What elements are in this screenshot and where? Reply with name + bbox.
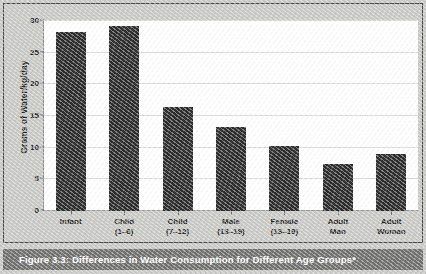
plot-area: Grams of Water/kg/day 051015202530 Infan… (4, 4, 422, 242)
bar-group: AdultMan (311, 21, 364, 211)
x-tick-label-line: Woman (377, 227, 406, 237)
x-tick-label-line: (7–12) (166, 227, 189, 237)
x-tick-label: Child(7–12) (166, 217, 189, 237)
x-tick-label-line: Child (114, 217, 134, 227)
bar-group: Male(13–19) (204, 21, 257, 211)
bar-series: InfantChild(1–6)Child(7–12)Male(13–19)Fe… (44, 21, 418, 211)
x-tick-label-line: (1–6) (114, 227, 134, 237)
y-tick-label-10: 10 (30, 142, 39, 151)
bar (269, 146, 299, 211)
x-tick-label-line: Adult (377, 217, 406, 227)
bar (109, 26, 139, 211)
bar (376, 154, 406, 211)
x-tick-label: AdultWoman (377, 217, 406, 237)
x-tick-label: AdultMan (328, 217, 348, 237)
axis-area: 051015202530 InfantChild(1–6)Child(7–12)… (44, 21, 418, 211)
x-tick-mark (231, 211, 232, 215)
x-tick-label-line: Child (166, 217, 189, 227)
x-tick-label-line: Adult (328, 217, 348, 227)
bar (163, 107, 193, 211)
y-tick-label-15: 15 (30, 111, 39, 120)
y-tick-label-5: 5 (35, 174, 39, 183)
x-tick-label-line: Male (217, 217, 245, 227)
x-tick-mark (284, 211, 285, 215)
x-tick-label: Child(1–6) (114, 217, 134, 237)
bar-group: AdultWoman (365, 21, 418, 211)
x-tick-mark (338, 211, 339, 215)
y-axis-title: Grams of Water/kg/day (19, 27, 29, 187)
x-tick-mark (391, 211, 392, 215)
x-tick-label: Infant (60, 217, 82, 227)
bar (323, 164, 353, 212)
figure-container: Grams of Water/kg/day 051015202530 Infan… (0, 0, 426, 274)
x-tick-label-line: Man (328, 227, 348, 237)
y-tick-label-25: 25 (30, 47, 39, 56)
x-tick-label-line: (13–19) (217, 227, 245, 237)
figure-caption-text: Figure 3.3: Differences in Water Consump… (3, 254, 356, 265)
figure-caption-bar: Figure 3.3: Differences in Water Consump… (3, 249, 423, 270)
x-tick-label: Female(13–19) (271, 217, 299, 237)
y-tick-label-30: 30 (30, 16, 39, 25)
y-tick-label-0: 0 (35, 206, 39, 215)
bar (216, 127, 246, 211)
bar-group: Infant (44, 21, 97, 211)
x-tick-mark (71, 211, 72, 215)
bar-group: Female(13–19) (258, 21, 311, 211)
bar-group: Child(1–6) (97, 21, 150, 211)
x-tick-label-line: Infant (60, 217, 82, 227)
x-tick-label-line: (13–19) (271, 227, 299, 237)
x-tick-label-line: Female (271, 217, 299, 227)
x-tick-mark (124, 211, 125, 215)
x-tick-mark (178, 211, 179, 215)
bar (56, 32, 86, 211)
y-tick-label-20: 20 (30, 79, 39, 88)
x-tick-label: Male(13–19) (217, 217, 245, 237)
bar-group: Child(7–12) (151, 21, 204, 211)
